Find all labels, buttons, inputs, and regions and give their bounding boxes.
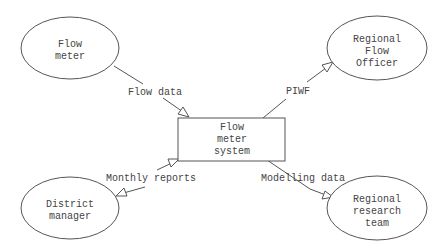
flow-label-flow-data: Flow data: [128, 87, 182, 98]
entity-regional-flow-officer: Regional Flow Officer: [327, 16, 427, 80]
arrowhead-icon: [322, 62, 333, 72]
entity-label: research: [353, 206, 401, 217]
entity-flow-meter: Flow meter: [21, 17, 119, 79]
entity-label: Flow: [365, 46, 389, 57]
process-flow-meter-system: Flow meter system: [178, 118, 285, 161]
entity-label: Regional: [353, 34, 401, 45]
entity-regional-research-team: Regional research team: [327, 176, 427, 240]
entity-label: Regional: [353, 194, 401, 205]
entity-label: team: [365, 218, 389, 229]
context-diagram: Flow meter Regional Flow Officer Distric…: [0, 0, 448, 252]
entity-district-manager: District manager: [21, 177, 119, 239]
process-label: Flow: [220, 122, 244, 133]
entity-label: Officer: [356, 58, 398, 69]
flow-label-modelling-data: Modelling data: [261, 173, 345, 184]
entity-label: manager: [49, 211, 91, 222]
process-label: system: [214, 146, 250, 157]
entity-label: District: [46, 199, 94, 210]
entity-label: Flow: [58, 39, 82, 50]
arrowhead-icon: [168, 159, 179, 167]
arrowhead-icon: [116, 188, 127, 196]
entity-label: meter: [55, 51, 85, 62]
flow-label-piwf: PIWF: [286, 86, 310, 97]
process-label: meter: [217, 134, 247, 145]
arrowhead-icon: [178, 107, 189, 117]
flow-label-monthly-reports: Monthly reports: [106, 173, 196, 184]
